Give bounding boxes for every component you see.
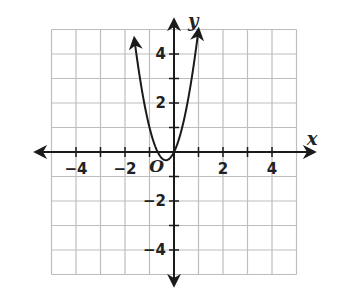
y-tick-label: 2	[156, 94, 166, 112]
y-tick-label: 4	[156, 45, 166, 63]
x-tick-label: 2	[218, 160, 228, 178]
y-axis-label: y	[187, 10, 200, 31]
y-tick-label: −4	[143, 241, 166, 259]
parabola-curve	[134, 30, 198, 161]
x-tick-label: −4	[64, 160, 87, 178]
x-tick-label: −2	[113, 160, 136, 178]
tick-labels: −4−22442−2−4Oxy	[64, 10, 317, 259]
y-tick-label: −2	[143, 192, 166, 210]
x-tick-label: 4	[267, 160, 277, 178]
parabola-path	[134, 30, 198, 161]
parabola-graph: −4−22442−2−4Oxy	[0, 0, 346, 295]
x-axis-label: x	[306, 128, 318, 149]
origin-label: O	[149, 156, 164, 176]
